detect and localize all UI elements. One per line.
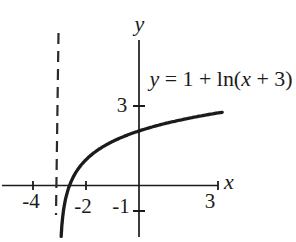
y-tick-label-neg1: -1 (112, 194, 130, 218)
x-tick-label-pos3: 3 (205, 189, 216, 213)
equation-end: + 3) (251, 66, 293, 91)
vertical-asymptote-dashed-line (56, 33, 59, 215)
log-function-figure: y x y = 1 + ln(x + 3) -4 -2 3 3 -1 (0, 0, 296, 242)
equation-inner-var: x (240, 66, 251, 91)
x-tick-label-neg4: -4 (22, 189, 40, 213)
figure-canvas: y x y = 1 + ln(x + 3) -4 -2 3 3 -1 (0, 0, 296, 242)
x-tick-label-neg2: -2 (74, 194, 92, 218)
equation-lhs-var: y (148, 66, 160, 91)
equation-label: y = 1 + ln(x + 3) (148, 66, 293, 91)
x-axis-label: x (223, 169, 234, 194)
equation-mid: = 1 + ln( (159, 66, 241, 91)
y-axis-label: y (133, 11, 145, 36)
y-tick-label-pos3: 3 (117, 93, 128, 117)
